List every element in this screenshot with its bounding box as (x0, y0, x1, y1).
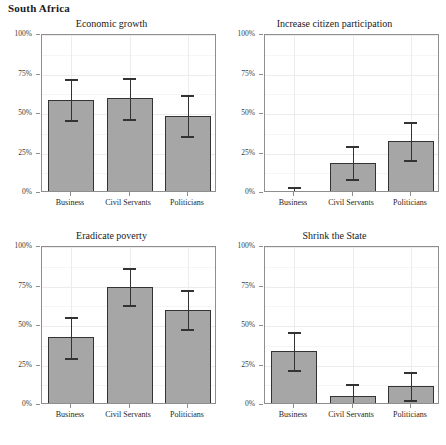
x-axis-tick-label: Business (41, 410, 99, 419)
error-bar-cap-lower (181, 136, 194, 138)
x-axis-tick-label: Business (264, 410, 322, 419)
error-bar-cap-upper (288, 187, 301, 189)
gridline-horizontal-minor (265, 267, 438, 268)
panel-1: Economic growth0%25%50%75%100%BusinessCi… (0, 18, 223, 230)
gridline-horizontal-minor (42, 55, 215, 56)
gridline-horizontal-minor (265, 55, 438, 56)
error-bar-line (71, 79, 72, 120)
x-axis-tick-mark (129, 404, 130, 408)
y-axis-tick-mark (259, 286, 263, 287)
y-axis-tick-mark (259, 325, 263, 326)
error-bar-cap-lower (65, 120, 78, 122)
error-bar-cap-upper (181, 95, 194, 97)
x-axis-tick-mark (187, 192, 188, 196)
y-axis-tick-label: 75% (0, 69, 32, 78)
y-axis-tick-mark (259, 192, 263, 193)
error-bar-cap-lower (404, 400, 417, 402)
gridline-horizontal (265, 35, 438, 36)
x-axis-tick-mark (70, 404, 71, 408)
gridline-horizontal (42, 35, 215, 36)
error-bar-cap-lower (65, 358, 78, 360)
plot-area (264, 246, 439, 404)
y-axis-tick-label: 25% (0, 148, 32, 157)
y-axis-tick-mark (259, 74, 263, 75)
panel-title: Increase citizen participation (223, 18, 446, 29)
error-bar-cap-lower (288, 370, 301, 372)
x-axis-tick-label: Civil Servants (322, 410, 380, 419)
gridline-horizontal (42, 75, 215, 76)
plot-area (264, 34, 439, 192)
y-axis-tick-mark (259, 113, 263, 114)
panel-title: Economic growth (0, 18, 223, 29)
error-bar-cap-upper (65, 79, 78, 81)
y-axis-tick-mark (36, 34, 40, 35)
gridline-vertical (353, 247, 354, 403)
y-axis-tick-mark (259, 404, 263, 405)
panel-title: Shrink the State (223, 230, 446, 241)
gridline-horizontal (42, 247, 215, 248)
x-axis-tick-label: Civil Servants (322, 198, 380, 207)
y-axis-tick-label: 100% (0, 29, 32, 38)
error-bar-cap-upper (346, 384, 359, 386)
x-axis-tick-label: Politicians (381, 198, 439, 207)
y-axis-tick-mark (36, 246, 40, 247)
y-axis-tick-mark (259, 365, 263, 366)
gridline-horizontal-minor (265, 134, 438, 135)
x-axis-tick-mark (70, 192, 71, 196)
panel-title: Eradicate poverty (0, 230, 223, 241)
x-axis-tick-label: Business (41, 198, 99, 207)
y-axis-tick-mark (36, 113, 40, 114)
error-bar-line (353, 146, 354, 179)
error-bar-line (294, 332, 295, 370)
y-axis-tick-label: 75% (0, 281, 32, 290)
error-bar-cap-lower (404, 160, 417, 162)
y-axis-tick-label: 100% (223, 29, 255, 38)
y-axis-tick-mark (36, 153, 40, 154)
y-axis-tick-label: 25% (223, 148, 255, 157)
error-bar-line (353, 384, 354, 404)
y-axis-tick-label: 0% (0, 399, 32, 408)
y-axis-tick-label: 50% (0, 108, 32, 117)
x-axis-tick-mark (410, 404, 411, 408)
x-axis-tick-label: Civil Servants (99, 198, 157, 207)
y-axis-tick-mark (259, 153, 263, 154)
error-bar-line (188, 95, 189, 136)
gridline-horizontal (265, 75, 438, 76)
error-bar-cap-lower (181, 329, 194, 331)
y-axis-tick-label: 0% (223, 187, 255, 196)
error-bar-line (130, 78, 131, 119)
error-bar-cap-upper (288, 332, 301, 334)
figure-canvas: South Africa Economic growth0%25%50%75%1… (0, 0, 446, 445)
bar (271, 191, 317, 192)
y-axis-tick-mark (259, 246, 263, 247)
error-bar-cap-upper (181, 290, 194, 292)
error-bar-cap-lower (123, 119, 136, 121)
gridline-horizontal-minor (265, 94, 438, 95)
x-axis-tick-label: Business (264, 198, 322, 207)
y-axis-tick-label: 50% (0, 320, 32, 329)
error-bar-cap-upper (404, 122, 417, 124)
x-axis-tick-mark (293, 404, 294, 408)
error-bar-cap-upper (404, 372, 417, 374)
error-bar-cap-lower (346, 179, 359, 181)
y-axis-tick-label: 25% (0, 360, 32, 369)
gridline-horizontal (265, 247, 438, 248)
plot-area (41, 246, 216, 404)
x-axis-tick-mark (293, 192, 294, 196)
figure-title: South Africa (8, 2, 70, 14)
y-axis-tick-mark (36, 365, 40, 366)
y-axis-tick-mark (36, 325, 40, 326)
x-axis-tick-label: Politicians (158, 198, 216, 207)
gridline-horizontal-minor (265, 306, 438, 307)
y-axis-tick-label: 25% (223, 360, 255, 369)
y-axis-tick-label: 100% (0, 241, 32, 250)
error-bar-line (130, 268, 131, 306)
gridline-horizontal (265, 326, 438, 327)
y-axis-tick-label: 0% (0, 187, 32, 196)
y-axis-tick-label: 50% (223, 320, 255, 329)
y-axis-tick-label: 75% (223, 281, 255, 290)
error-bar-cap-upper (346, 146, 359, 148)
y-axis-tick-label: 0% (223, 399, 255, 408)
error-bar-cap-upper (123, 78, 136, 80)
gridline-horizontal-minor (265, 346, 438, 347)
